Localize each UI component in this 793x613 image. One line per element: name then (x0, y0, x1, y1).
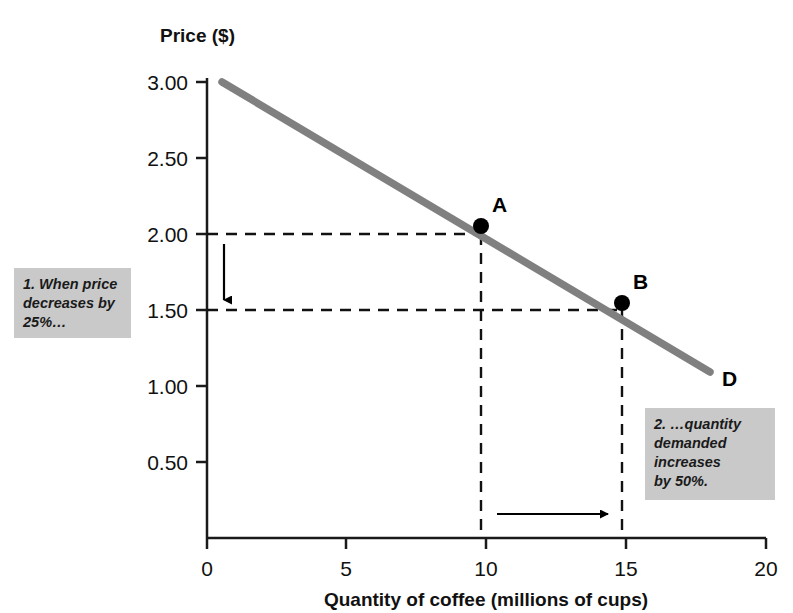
annotation-price-decrease: 1. When price decreases by 25%… (14, 268, 131, 338)
annotation-price-line-2: decreases by (23, 294, 122, 313)
annotation-price-line-3: 25%… (23, 313, 122, 332)
annotation-quantity-increase: 2. …quantity demanded increases by 50%. (645, 408, 775, 500)
data-point-b (614, 295, 630, 311)
annotation-quantity-line-2: demanded (654, 434, 766, 453)
y-tick-label-0-50: 0.50 (147, 451, 188, 474)
demand-curve-figure: Price ($) 3.00 2.50 2.00 1.50 1.00 0.50 … (0, 0, 793, 613)
y-tick-label-1-00: 1.00 (147, 375, 188, 398)
x-tick-label-0: 0 (201, 557, 213, 580)
data-point-a-label: A (492, 193, 507, 216)
y-tick-label-2-00: 2.00 (147, 223, 188, 246)
y-tick-label-2-50: 2.50 (147, 147, 188, 170)
data-point-a (473, 218, 489, 234)
y-axis-title: Price ($) (160, 25, 235, 46)
y-tick-label-3-00: 3.00 (147, 71, 188, 94)
demand-curve-label: D (722, 367, 737, 390)
x-tick-label-10: 10 (474, 557, 497, 580)
x-tick-label-20: 20 (754, 557, 777, 580)
annotation-price-line-1: 1. When price (23, 275, 122, 294)
x-tick-label-15: 15 (614, 557, 637, 580)
x-tick-label-5: 5 (340, 557, 352, 580)
annotation-quantity-line-1: 2. …quantity (654, 415, 766, 434)
annotation-quantity-line-3: increases (654, 453, 766, 472)
x-axis-title: Quantity of coffee (millions of cups) (324, 589, 648, 610)
annotation-quantity-line-4: by 50%. (654, 472, 766, 491)
data-point-b-label: B (633, 270, 648, 293)
demand-curve-line (222, 82, 710, 372)
y-tick-label-1-50: 1.50 (147, 299, 188, 322)
